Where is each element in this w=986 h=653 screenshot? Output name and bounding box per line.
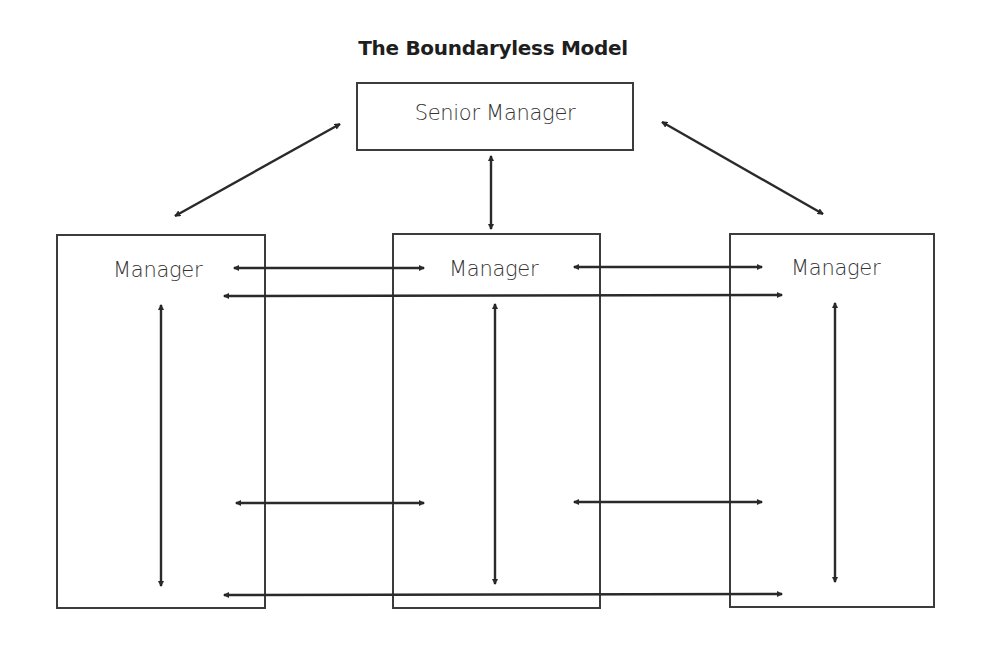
connector-arrows: [0, 0, 986, 653]
arrow-senior-left: [175, 124, 340, 216]
arrow-left-right-bottom-wide: [224, 594, 782, 595]
arrow-left-right-top-wide: [224, 295, 782, 296]
arrow-senior-right: [662, 122, 823, 214]
